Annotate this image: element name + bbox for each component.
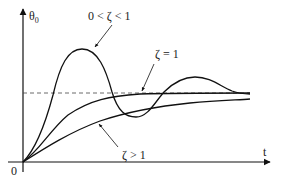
y-axis-label: θ0	[29, 9, 39, 25]
critical-label: ζ = 1	[155, 47, 179, 61]
underdamped-label: 0 < ζ < 1	[88, 9, 131, 23]
overdamped-label: ζ > 1	[122, 148, 146, 162]
x-axis-label: t	[263, 145, 267, 159]
overdamped-pointer	[99, 124, 118, 147]
critical-pointer	[142, 64, 154, 91]
origin-label: 0	[11, 164, 17, 178]
underdamped-pointer	[95, 25, 112, 47]
underdamped-curve	[23, 49, 250, 162]
step-response-chart: θ0 t 0 0 < ζ < 1 ζ = 1 ζ > 1	[0, 0, 283, 183]
